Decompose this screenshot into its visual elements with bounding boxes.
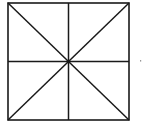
square-diagram [0,0,143,122]
stray-dot [140,60,141,62]
